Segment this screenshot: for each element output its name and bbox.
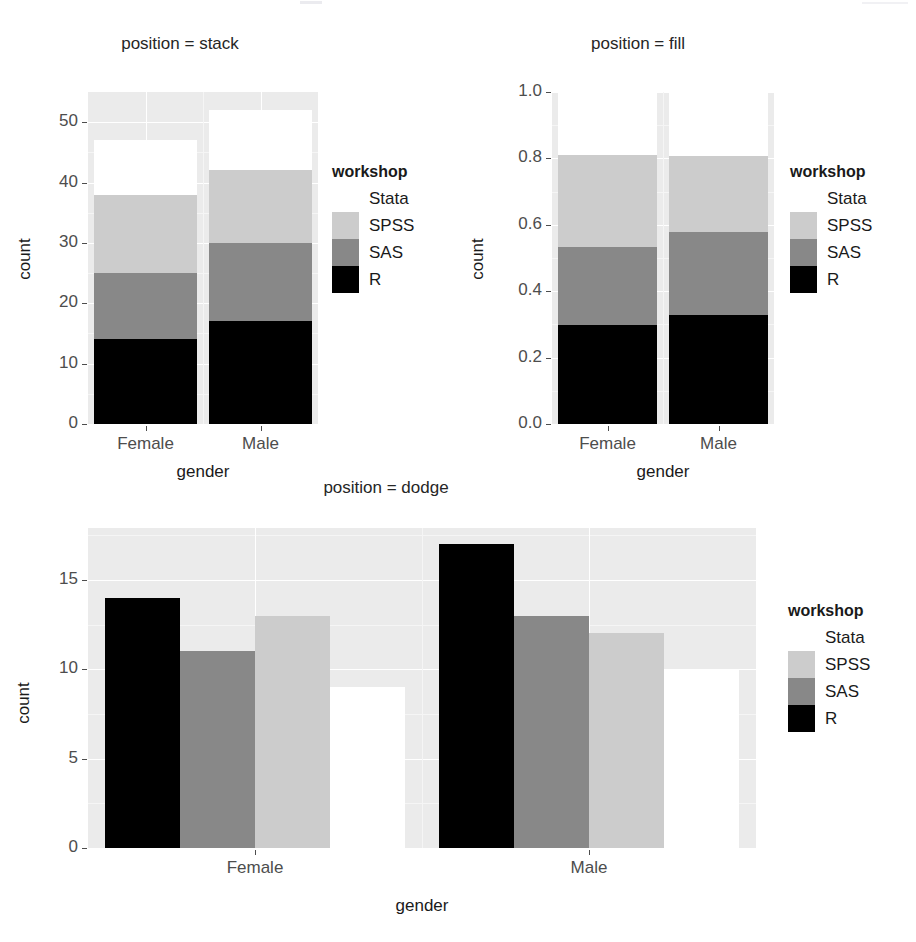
legend-item-sas[interactable]: SAS <box>788 678 870 705</box>
legend-swatch-r-icon <box>332 266 359 293</box>
bar-male-spss <box>209 170 313 242</box>
bar-male-stata <box>664 669 739 848</box>
legend-label-spss: SPSS <box>369 216 414 236</box>
legend-rows-stack: StataSPSSSASR <box>332 185 414 293</box>
legend-swatch-spss-icon <box>790 212 817 239</box>
ytick-mark <box>82 364 87 365</box>
ytick-mark <box>546 424 551 425</box>
xtick-label-female: Female <box>195 858 315 878</box>
bar-female-spss <box>94 195 198 273</box>
bar-male-r <box>209 321 313 424</box>
ytick-mark <box>82 848 87 849</box>
bar-female-stata <box>94 140 198 194</box>
legend-label-sas: SAS <box>827 243 861 263</box>
ytick-mark <box>82 424 87 425</box>
ytick-label: 0.8 <box>488 147 542 167</box>
legend-label-r: R <box>369 270 381 290</box>
bar-male-r <box>439 544 514 848</box>
legend-swatch-r-icon <box>790 266 817 293</box>
xtick-mark <box>589 850 590 855</box>
legend-item-spss[interactable]: SPSS <box>788 651 870 678</box>
figure-root: { "figure": { "colors": { "panel_bg": "#… <box>0 0 916 942</box>
facet-title-stack: position = stack <box>0 34 360 54</box>
ytick-mark <box>82 183 87 184</box>
legend-swatch-stata-icon <box>788 624 815 651</box>
legend-item-r[interactable]: R <box>790 266 872 293</box>
legend-label-stata: Stata <box>825 628 865 648</box>
plot-area-dodge <box>88 528 756 848</box>
bar-female-r <box>94 339 198 424</box>
facet-title-fill: position = fill <box>458 34 818 54</box>
legend-title-stack: workshop <box>332 163 414 181</box>
bar-female-spss <box>558 155 658 247</box>
legend-item-stata[interactable]: Stata <box>788 624 870 651</box>
legend-rows-fill: StataSPSSSASR <box>790 185 872 293</box>
ytick-label: 10 <box>24 353 78 373</box>
legend-item-stata[interactable]: Stata <box>790 185 872 212</box>
axis-title-x-dodge: gender <box>88 896 756 916</box>
ytick-label: 0.6 <box>488 214 542 234</box>
ytick-label: 1.0 <box>488 81 542 101</box>
facet-position-dodge: position = dodge count gender 051015Fema… <box>0 478 916 942</box>
ytick-mark <box>82 122 87 123</box>
bar-male-stata <box>209 110 313 170</box>
xtick-label-male: Male <box>201 434 321 454</box>
ytick-label: 40 <box>24 172 78 192</box>
bar-female-spss <box>255 616 330 848</box>
ytick-label: 0 <box>24 413 78 433</box>
facet-title-dodge: position = dodge <box>0 478 772 498</box>
xtick-mark <box>261 426 262 431</box>
ytick-mark <box>82 243 87 244</box>
legend-item-r[interactable]: R <box>788 705 870 732</box>
legend-fill: workshop StataSPSSSASR <box>790 163 872 293</box>
legend-label-sas: SAS <box>825 682 859 702</box>
ytick-label: 20 <box>24 292 78 312</box>
xtick-label-male: Male <box>529 858 649 878</box>
legend-swatch-sas-icon <box>788 678 815 705</box>
gridline-minor-x <box>663 92 664 424</box>
panel-background <box>88 528 756 848</box>
legend-item-spss[interactable]: SPSS <box>332 212 414 239</box>
legend-label-spss: SPSS <box>825 655 870 675</box>
axis-title-y-fill: count <box>468 229 488 289</box>
ytick-label: 5 <box>24 748 78 768</box>
legend-label-r: R <box>827 270 839 290</box>
ytick-mark <box>82 759 87 760</box>
legend-item-r[interactable]: R <box>332 266 414 293</box>
bar-male-spss <box>589 633 664 848</box>
bar-male-sas <box>209 243 313 321</box>
legend-title-dodge: workshop <box>788 602 870 620</box>
panel-background <box>88 92 318 424</box>
xtick-label-male: Male <box>659 434 779 454</box>
legend-label-r: R <box>825 709 837 729</box>
legend-swatch-sas-icon <box>790 239 817 266</box>
ytick-label: 15 <box>24 569 78 589</box>
legend-swatch-spss-icon <box>332 212 359 239</box>
legend-label-stata: Stata <box>369 189 409 209</box>
legend-label-sas: SAS <box>369 243 403 263</box>
scan-artifact <box>300 1 322 4</box>
gridline-minor-x <box>422 528 423 848</box>
bar-male-stata <box>669 92 769 156</box>
legend-label-spss: SPSS <box>827 216 872 236</box>
legend-item-stata[interactable]: Stata <box>332 185 414 212</box>
bar-male-r <box>669 315 769 424</box>
legend-stack: workshop StataSPSSSASR <box>332 163 414 293</box>
legend-item-sas[interactable]: SAS <box>332 239 414 266</box>
xtick-mark <box>146 426 147 431</box>
ytick-label: 0.0 <box>488 413 542 433</box>
legend-swatch-r-icon <box>788 705 815 732</box>
ytick-label: 0 <box>24 837 78 857</box>
legend-item-sas[interactable]: SAS <box>790 239 872 266</box>
bar-male-sas <box>514 616 589 848</box>
xtick-mark <box>255 850 256 855</box>
legend-item-spss[interactable]: SPSS <box>790 212 872 239</box>
ytick-label: 0.2 <box>488 347 542 367</box>
legend-title-fill: workshop <box>790 163 872 181</box>
legend-swatch-stata-icon <box>790 185 817 212</box>
legend-dodge: workshop StataSPSSSASR <box>788 602 870 732</box>
ytick-mark <box>546 92 551 93</box>
bar-female-r <box>105 598 180 848</box>
bar-male-spss <box>669 156 769 233</box>
axis-title-y-dodge: count <box>14 673 34 733</box>
